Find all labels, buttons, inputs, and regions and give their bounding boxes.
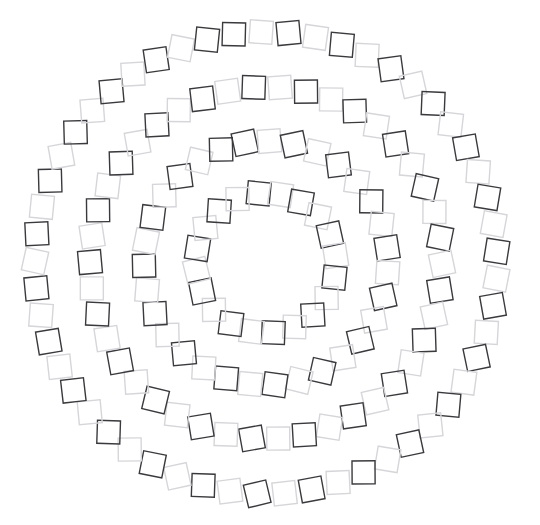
concentric-rings-plot: [0, 0, 540, 525]
plot-background: [0, 0, 540, 525]
figure-canvas: [0, 0, 540, 525]
